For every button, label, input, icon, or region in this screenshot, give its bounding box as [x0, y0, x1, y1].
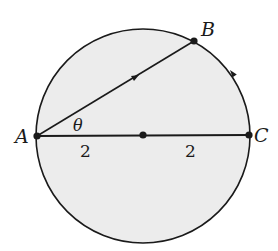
- label-b: B: [200, 18, 215, 40]
- point-c: [245, 131, 252, 138]
- label-a: A: [13, 125, 29, 147]
- point-a: [33, 132, 40, 139]
- segment-label-left: 2: [80, 141, 91, 161]
- circle-diagram: A B C θ 2 2: [0, 0, 278, 251]
- label-c: C: [254, 124, 269, 146]
- segment-label-right: 2: [185, 141, 196, 161]
- angle-theta-label: θ: [73, 116, 83, 135]
- point-center: [139, 131, 146, 138]
- point-b: [190, 37, 197, 44]
